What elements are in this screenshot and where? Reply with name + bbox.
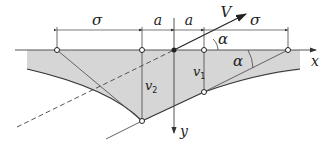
point-2 xyxy=(140,48,145,53)
label-sigma-right: σ xyxy=(250,11,261,29)
label-x-axis: x xyxy=(311,53,319,69)
label-y-axis: y xyxy=(179,123,189,139)
label-a-right: a xyxy=(185,12,193,28)
vertex-v2 xyxy=(140,119,145,124)
origin-point xyxy=(172,48,177,53)
label-sigma-left: σ xyxy=(92,11,103,29)
label-alpha-bottom: α xyxy=(233,52,243,70)
ray-extension xyxy=(106,121,142,139)
label-velocity: V xyxy=(221,3,234,21)
point-4 xyxy=(286,48,291,53)
point-3 xyxy=(202,48,207,53)
label-alpha-top: α xyxy=(218,30,228,48)
vertex-v1 xyxy=(202,90,207,95)
label-a-left: a xyxy=(154,12,162,28)
point-1 xyxy=(55,48,60,53)
label-v1-sub: 1 xyxy=(200,72,205,81)
label-v2-sub: 2 xyxy=(152,86,157,95)
wedge-diagram: σ a a σ V α α x y v2 v1 xyxy=(0,0,334,146)
